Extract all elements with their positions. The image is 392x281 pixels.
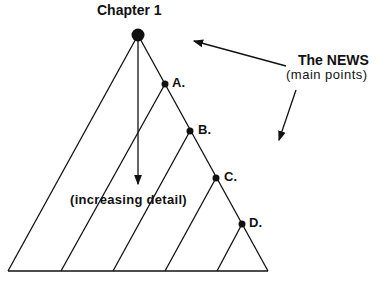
news-label: The NEWS: [298, 52, 369, 68]
node-a: [162, 81, 169, 88]
detail-label: (increasing detail): [70, 192, 187, 207]
point-d-label: D.: [249, 215, 262, 230]
node-b: [187, 128, 194, 135]
news-sublabel: (main points): [286, 67, 368, 82]
chapter-title: Chapter 1: [97, 2, 162, 18]
point-c-label: C.: [224, 169, 237, 184]
node-d: [239, 221, 246, 228]
node-c: [213, 175, 220, 182]
triangle-left-edge: [8, 35, 138, 271]
triangle-right-edge: [138, 35, 268, 271]
point-a-label: A.: [172, 75, 185, 90]
point-b-label: B.: [198, 122, 211, 137]
chapter-node: [132, 29, 145, 42]
branch-a: [61, 84, 165, 271]
news-arrow-top: [194, 41, 286, 66]
pyramid-diagram: [0, 0, 392, 281]
news-arrow-down: [279, 90, 296, 140]
branch-d: [217, 224, 242, 271]
